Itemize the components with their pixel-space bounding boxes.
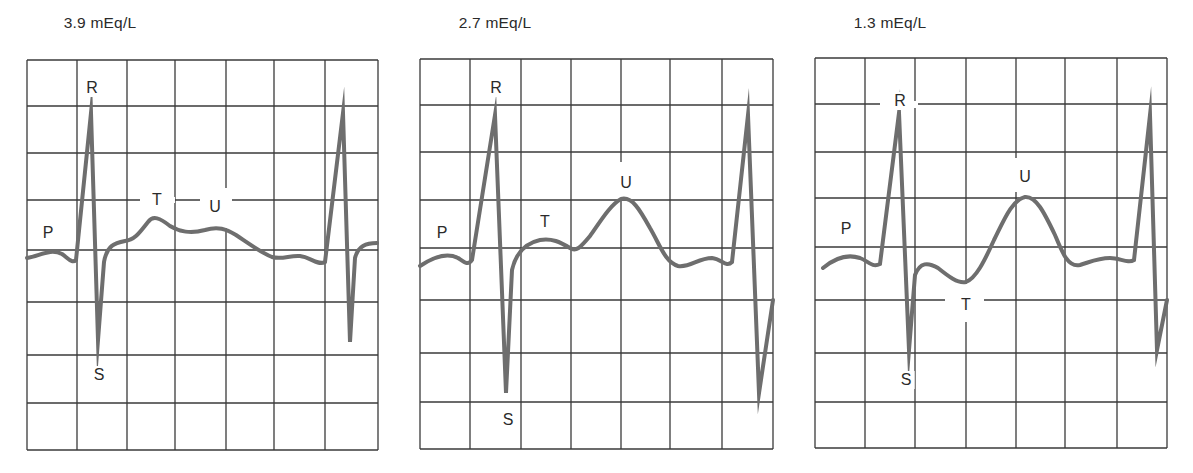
panel-3.9	[27, 60, 378, 450]
wave-label-t: T	[149, 191, 165, 209]
wave-label-p: P	[40, 224, 57, 242]
wave-label-u: U	[617, 174, 635, 192]
wave-label-t: T	[537, 213, 553, 231]
panel-title: 1.3 mEq/L	[790, 14, 990, 32]
panel-2.7	[420, 59, 773, 449]
wave-label-s: S	[898, 371, 915, 389]
panel-title: 3.9 mEq/L	[0, 14, 200, 32]
wave-label-t: T	[958, 296, 974, 314]
wave-label-r: R	[83, 79, 101, 97]
panel-1.3	[815, 58, 1167, 448]
ecg-grid	[815, 58, 1167, 448]
wave-label-s: S	[91, 366, 108, 384]
wave-label-u: U	[1016, 168, 1034, 186]
label-gap	[223, 188, 229, 228]
ecg-trace	[420, 115, 773, 393]
wave-label-p: P	[838, 220, 855, 238]
wave-label-p: P	[434, 224, 451, 242]
wave-label-u: U	[206, 198, 224, 216]
figure: 3.9 mEq/L 2.7 mEq/L 1.3 mEq/L P R T U S …	[0, 0, 1193, 473]
ecg-figure-canvas	[0, 0, 1193, 473]
wave-label-r: R	[487, 79, 505, 97]
wave-label-s: S	[500, 411, 517, 429]
ecg-trace	[823, 113, 1167, 350]
wave-label-r: R	[891, 92, 909, 110]
panel-title: 2.7 mEq/L	[395, 14, 595, 32]
